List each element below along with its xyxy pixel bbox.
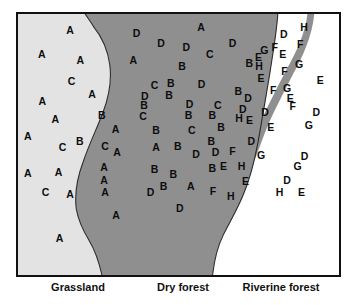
species-marker-h: H — [276, 187, 284, 198]
species-marker-d: D — [192, 149, 200, 160]
species-marker-h: H — [238, 160, 246, 171]
habitat-caption-riverine-forest: Riverine forest — [242, 281, 319, 293]
species-marker-d: D — [198, 79, 206, 90]
species-marker-a: A — [101, 187, 109, 198]
species-marker-a: A — [52, 113, 60, 124]
species-marker-b: B — [160, 181, 168, 192]
species-marker-e: E — [258, 72, 265, 83]
species-marker-b: B — [209, 163, 217, 174]
species-marker-c: C — [59, 141, 67, 152]
species-marker-a: A — [152, 141, 160, 152]
species-marker-b: B — [98, 110, 106, 121]
species-marker-d: D — [229, 38, 237, 49]
species-marker-e: E — [220, 160, 227, 171]
species-marker-b: B — [76, 135, 84, 146]
species-marker-c: C — [151, 80, 159, 91]
species-marker-b: B — [152, 125, 160, 136]
species-marker-d: D — [186, 99, 194, 110]
species-marker-f: F — [289, 101, 295, 112]
species-marker-d: D — [147, 187, 155, 198]
species-marker-a: A — [55, 167, 63, 178]
species-marker-h: H — [255, 61, 263, 72]
species-marker-b: B — [235, 86, 243, 97]
species-marker-f: F — [210, 186, 216, 197]
species-marker-b: B — [174, 141, 182, 152]
species-marker-d: D — [313, 107, 321, 118]
species-marker-a: A — [77, 54, 85, 65]
species-marker-e: E — [298, 187, 305, 198]
species-marker-e: E — [246, 115, 253, 126]
species-marker-a: A — [112, 210, 120, 221]
species-marker-a: A — [197, 21, 205, 32]
species-marker-a: A — [66, 189, 74, 200]
species-marker-a: A — [24, 168, 32, 179]
species-marker-d: D — [283, 175, 291, 186]
species-marker-e: E — [317, 74, 324, 85]
species-marker-b: B — [246, 58, 254, 69]
species-marker-f: F — [270, 84, 276, 95]
species-marker-e: E — [242, 176, 249, 187]
species-marker-c: C — [42, 187, 50, 198]
species-marker-d: D — [244, 93, 252, 104]
habitat-caption-grassland: Grassland — [51, 281, 105, 293]
species-marker-f: F — [229, 146, 235, 157]
species-marker-g: G — [305, 120, 313, 131]
species-marker-b: B — [217, 121, 225, 132]
species-marker-b: B — [170, 169, 178, 180]
species-marker-c: C — [139, 111, 147, 122]
species-marker-a: A — [130, 55, 138, 66]
species-marker-c: C — [206, 49, 214, 60]
species-marker-d: D — [133, 28, 141, 39]
species-marker-b: B — [165, 90, 173, 101]
species-marker-h: H — [300, 21, 308, 32]
species-marker-e: E — [267, 121, 274, 132]
species-marker-d: D — [212, 147, 220, 158]
species-marker-a: A — [56, 233, 64, 244]
species-marker-a: A — [66, 25, 74, 36]
species-marker-a: A — [39, 96, 47, 107]
species-marker-d: D — [280, 29, 288, 40]
species-marker-f: F — [297, 38, 303, 49]
species-marker-g: G — [257, 150, 265, 161]
map-frame: AAACAABAAABCCAAAAACAAAADADDDCABBCBDDBBBD… — [16, 12, 341, 277]
species-marker-b: B — [167, 78, 175, 89]
species-marker-d: D — [261, 106, 269, 117]
species-marker-a: A — [88, 88, 96, 99]
species-marker-c: C — [68, 76, 76, 87]
species-marker-g: G — [293, 160, 301, 171]
species-marker-c: C — [101, 141, 109, 152]
species-marker-a: A — [187, 180, 195, 191]
species-marker-d: D — [176, 203, 184, 214]
species-marker-f: F — [272, 42, 278, 53]
species-marker-g: G — [295, 59, 303, 70]
species-marker-h: H — [227, 191, 235, 202]
species-marker-d: D — [183, 42, 191, 53]
species-marker-a: A — [24, 131, 32, 142]
species-marker-b: B — [178, 61, 186, 72]
habitat-caption-dry-forest: Dry forest — [157, 281, 209, 293]
species-marker-a: A — [112, 123, 120, 134]
habitat-caption-row: GrasslandDry forestRiverine forest — [16, 281, 341, 301]
species-marker-e: E — [279, 49, 286, 60]
species-marker-h: H — [235, 113, 243, 124]
species-marker-a: A — [100, 174, 108, 185]
species-marker-a: A — [38, 49, 46, 60]
species-marker-d: D — [301, 151, 309, 162]
species-marker-b: B — [209, 110, 217, 121]
species-marker-f: F — [281, 66, 287, 77]
species-marker-d: D — [248, 135, 256, 146]
habitat-distribution-figure: AAACAABAAABCCAAAAACAAAADADDDCABBCBDDBBBD… — [0, 0, 359, 305]
species-marker-a: A — [100, 162, 108, 173]
species-marker-a: A — [113, 147, 121, 158]
species-marker-c: C — [188, 125, 196, 136]
species-marker-b: B — [151, 164, 159, 175]
species-marker-d: D — [157, 37, 165, 48]
species-marker-b: B — [185, 110, 193, 121]
